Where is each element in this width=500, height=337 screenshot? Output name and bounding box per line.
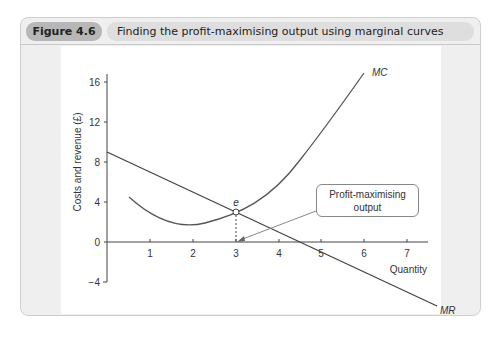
point-e-label: e — [233, 197, 239, 208]
arrow-head-icon — [237, 236, 245, 242]
x-tick-4: 4 — [276, 248, 282, 259]
x-tick-1: 1 — [147, 248, 153, 259]
y-tick-neg4: −4 — [89, 277, 101, 288]
y-tick-16: 16 — [89, 77, 101, 88]
y-axis-label: Costs and revenue (£) — [72, 113, 83, 212]
callout-line-1: Profit-maximising — [317, 188, 418, 201]
callout-line-2: output — [317, 201, 418, 214]
callout-arrow — [240, 211, 316, 240]
y-tick-8: 8 — [94, 157, 100, 168]
x-tick-7: 7 — [404, 248, 410, 259]
equilibrium-point — [233, 209, 239, 215]
chart-svg: 16 12 8 4 0 −4 1 2 3 4 5 6 7 Quantity Co… — [0, 0, 500, 337]
x-axis-label: Quantity — [390, 264, 427, 275]
mr-curve — [107, 152, 437, 306]
x-tick-2: 2 — [190, 248, 196, 259]
mr-label: MR — [440, 305, 456, 316]
mc-label: MC — [372, 67, 388, 78]
profit-maximising-callout: Profit-maximising output — [316, 184, 419, 217]
y-tick-12: 12 — [89, 117, 101, 128]
y-ticks — [103, 82, 107, 282]
y-tick-4: 4 — [94, 197, 100, 208]
x-tick-3: 3 — [233, 248, 239, 259]
x-tick-6: 6 — [361, 248, 367, 259]
y-tick-0: 0 — [94, 237, 100, 248]
